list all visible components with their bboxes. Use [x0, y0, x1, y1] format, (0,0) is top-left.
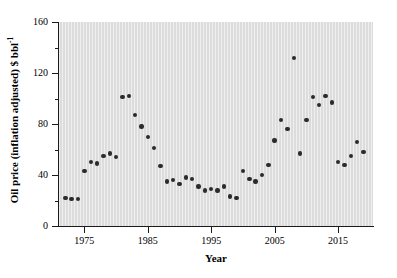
- y-tick-major: [52, 73, 59, 74]
- x-axis-line: [58, 226, 374, 227]
- x-tick: [211, 227, 212, 233]
- x-tick: [84, 227, 85, 233]
- y-tick-major: [52, 124, 59, 125]
- x-axis-title: Year: [59, 252, 373, 264]
- plot-area: [59, 22, 373, 226]
- data-point: [330, 100, 334, 104]
- data-point: [298, 151, 302, 155]
- data-point: [266, 163, 270, 167]
- data-point: [222, 184, 226, 188]
- data-point: [349, 154, 353, 158]
- data-point: [171, 178, 175, 182]
- data-point: [228, 194, 232, 198]
- data-point: [184, 175, 188, 179]
- data-point: [76, 197, 80, 201]
- data-point: [133, 113, 137, 117]
- data-point: [114, 155, 118, 159]
- data-point: [89, 160, 93, 164]
- data-point: [63, 196, 67, 200]
- data-point: [146, 135, 150, 139]
- x-tick: [275, 227, 276, 233]
- y-tick-major: [52, 22, 59, 23]
- x-tick-label: 1995: [189, 235, 233, 246]
- x-tick-label: 1985: [126, 235, 170, 246]
- y-tick-major: [52, 226, 59, 227]
- data-point: [69, 197, 73, 201]
- data-point: [253, 179, 257, 183]
- data-point: [311, 95, 315, 99]
- data-point: [279, 118, 283, 122]
- data-point: [272, 138, 276, 142]
- data-point: [336, 160, 340, 164]
- data-point: [158, 164, 162, 168]
- data-point: [120, 95, 124, 99]
- data-point: [82, 169, 86, 173]
- data-point: [323, 94, 327, 98]
- y-tick-label: 120: [8, 68, 48, 78]
- data-point: [95, 161, 99, 165]
- y-tick-major: [52, 175, 59, 176]
- data-point: [165, 179, 169, 183]
- data-point: [215, 188, 219, 192]
- data-point: [101, 154, 105, 158]
- data-point: [127, 94, 131, 98]
- x-tick-label: 2005: [253, 235, 297, 246]
- y-axis-title-superscript: -1: [6, 37, 15, 43]
- y-tick-minor: [55, 201, 60, 202]
- x-tick: [148, 227, 149, 233]
- data-point: [342, 163, 346, 167]
- data-point: [304, 118, 308, 122]
- y-tick-minor: [55, 99, 60, 100]
- y-tick-label: 0: [8, 221, 48, 231]
- data-point: [317, 103, 321, 107]
- data-point: [190, 177, 194, 181]
- data-point: [292, 56, 296, 60]
- y-tick-minor: [55, 48, 60, 49]
- data-point: [177, 182, 181, 186]
- x-tick: [338, 227, 339, 233]
- x-tick-label: 1975: [62, 235, 106, 246]
- data-point: [209, 187, 213, 191]
- data-point: [241, 169, 245, 173]
- data-point: [285, 127, 289, 131]
- oil-price-scatter-chart: Oil price (inflation adjusted) $ bbl-1 0…: [0, 0, 397, 278]
- data-point: [152, 146, 156, 150]
- y-tick-label: 40: [8, 170, 48, 180]
- data-point: [234, 196, 238, 200]
- data-point: [260, 173, 264, 177]
- y-tick-label: 80: [8, 119, 48, 129]
- data-point: [139, 124, 143, 128]
- data-point: [361, 150, 365, 154]
- y-tick-label: 160: [8, 17, 48, 27]
- data-point: [203, 188, 207, 192]
- data-point: [355, 140, 359, 144]
- y-tick-minor: [55, 150, 60, 151]
- x-tick-label: 2015: [316, 235, 360, 246]
- data-point: [108, 151, 112, 155]
- data-point: [196, 184, 200, 188]
- data-point: [247, 177, 251, 181]
